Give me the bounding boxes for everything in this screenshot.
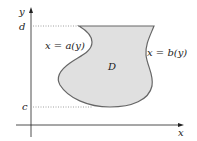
region-d <box>58 26 154 107</box>
tick-c: c <box>22 101 28 112</box>
diagram-canvas: y x d c D x = a(y) x = b(y) <box>0 0 197 141</box>
y-axis-arrow-icon <box>29 7 33 13</box>
left-curve-label: x = a(y) <box>45 40 85 51</box>
x-axis-label: x <box>178 127 184 138</box>
region-label: D <box>107 61 116 72</box>
y-axis-label: y <box>18 6 25 17</box>
tick-d: d <box>19 21 25 32</box>
right-curve-label: x = b(y) <box>147 47 187 58</box>
diagram-type-ii-region: y x d c D x = a(y) x = b(y) <box>0 0 197 141</box>
